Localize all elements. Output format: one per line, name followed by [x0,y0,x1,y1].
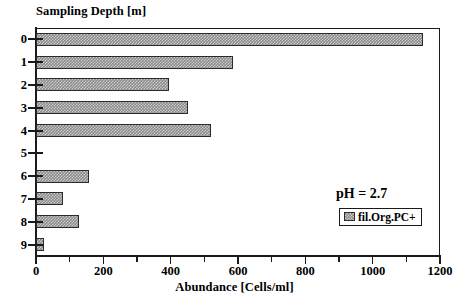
legend-entry-label: fil.Org.PC+ [358,211,416,223]
y-axis-tick-label: 0 [3,32,27,47]
bar-chart: Sampling Depth [m] 0123456789 0200400600… [0,0,469,302]
y-axis-tick [28,130,43,132]
bar [36,124,211,137]
x-axis-major-tick [103,257,105,264]
x-axis-tick-label: 1200 [428,264,453,279]
x-axis-tick-label: 1000 [360,264,385,279]
x-axis-tick-label: 200 [94,264,113,279]
x-axis-minor-tick [204,257,206,262]
y-axis-tick-label: 9 [3,237,27,252]
x-axis-major-tick [237,257,239,264]
legend-swatch-icon [344,212,355,221]
bar-row [36,96,188,119]
x-axis-tick-label: 800 [296,264,315,279]
y-axis-tick-label: 4 [3,123,27,138]
x-axis-minor-tick [136,257,138,262]
y-axis-tick-label: 3 [3,100,27,115]
x-axis-tick-label: 600 [229,264,248,279]
x-axis-major-tick [372,257,374,264]
ph-annotation: pH = 2.7 [336,186,387,202]
x-axis-minor-tick [271,257,273,262]
x-axis-tick-labels: 020040060080010001200 [36,264,441,280]
bar [36,33,423,46]
y-axis-tick-label: 7 [3,192,27,207]
y-axis-tick [28,84,43,86]
x-axis-minor-tick [406,257,408,262]
legend: fil.Org.PC+ [339,208,422,226]
y-axis-tick [28,244,43,246]
x-axis-minor-tick [338,257,340,262]
y-axis-tick-label: 6 [3,169,27,184]
y-axis-tick [28,61,43,63]
bar-row [36,51,233,74]
y-axis-tick-label: 5 [3,146,27,161]
y-axis-tick-label: 8 [3,214,27,229]
x-axis-major-tick [35,257,37,264]
x-axis-major-tick [439,257,441,264]
bar [36,170,89,183]
x-axis-minor-tick [69,257,71,262]
y-axis-tick [28,175,43,177]
y-axis-tick [28,198,43,200]
bar [36,101,188,114]
y-axis-tick [28,221,43,223]
y-axis-labels: 0123456789 [0,28,27,256]
y-axis-tick [28,152,43,154]
y-axis-tick-label: 2 [3,78,27,93]
bar-row [36,74,169,97]
y-axis-title: Sampling Depth [m] [36,4,146,19]
y-axis-tick [28,107,43,109]
x-axis-tick-label: 0 [33,264,39,279]
x-axis-tick-label: 400 [161,264,180,279]
x-axis-major-tick [170,257,172,264]
bar-row [36,119,211,142]
bar-row [36,165,89,188]
bar [36,78,169,91]
bar-row [36,28,423,51]
y-axis-tick-label: 1 [3,55,27,70]
x-axis-major-tick [305,257,307,264]
y-axis-tick [28,38,43,40]
bar [36,56,233,69]
x-axis-title: Abundance [Cells/ml] [0,280,469,295]
